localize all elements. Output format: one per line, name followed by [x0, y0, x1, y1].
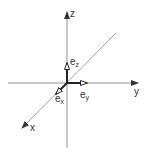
- coordinate-system-diagram: z y x ez ey ex: [0, 0, 145, 152]
- ey-label: ey: [80, 89, 90, 102]
- ex-label: ex: [55, 93, 65, 105]
- x-axis: [22, 33, 116, 128]
- z-axis-label: z: [70, 8, 75, 19]
- ez-label: ez: [70, 56, 80, 68]
- x-axis-label: x: [30, 122, 35, 133]
- y-axis-label: y: [134, 86, 139, 97]
